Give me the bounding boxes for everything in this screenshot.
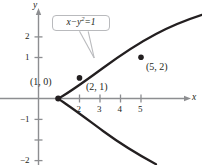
point-marker-2-1	[77, 75, 83, 81]
x-tick-label-3: 3	[97, 105, 102, 114]
graph-figure: y x 2 1 −1 −2 2 3 4 5 (1, 0) (2, 1) (5, …	[0, 0, 202, 165]
equation-callout-text: x−y2=1	[66, 18, 95, 28]
x-axis-label: x	[192, 93, 196, 103]
x-tick-label-2: 2	[77, 105, 82, 114]
x-tick-label-4: 4	[118, 105, 123, 114]
point-marker-1-0	[55, 96, 61, 102]
callout-leader-line	[80, 31, 95, 58]
y-axis-label: y	[33, 1, 37, 11]
x-axis-arrowhead	[184, 96, 191, 101]
equation-var-x: x	[66, 17, 70, 27]
point-label-2-1: (2, 1)	[86, 82, 108, 92]
point-label-5-2: (5, 2)	[146, 62, 168, 72]
y-tick-label-neg2: −2	[20, 156, 30, 165]
equation-callout: x−y2=1	[52, 15, 110, 31]
y-tick-label-1: 1	[25, 53, 30, 62]
y-tick-label-neg1: −1	[20, 115, 30, 124]
point-marker-5-2	[138, 55, 144, 61]
y-tick-label-2: 2	[25, 32, 30, 41]
equation-rhs: 1	[91, 17, 96, 27]
point-label-1-0: (1, 0)	[30, 77, 52, 87]
parabola-curve	[58, 15, 202, 164]
x-tick-label-5: 5	[138, 105, 143, 114]
